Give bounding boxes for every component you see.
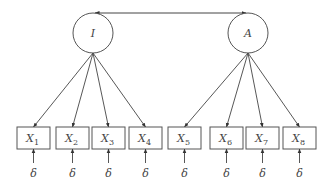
error-terms: δδδδδδδδ — [30, 149, 303, 180]
indicator-x1: X1 — [17, 127, 50, 149]
error-delta-label: δ — [259, 167, 266, 180]
factor-label: I — [90, 27, 96, 40]
indicator-x5: X5 — [168, 127, 201, 149]
indicator-x4: X4 — [129, 127, 162, 149]
indicator-x7: X7 — [246, 127, 279, 149]
indicator-x6: X6 — [210, 127, 243, 149]
loading-arrow-x6 — [227, 53, 249, 127]
error-delta-label: δ — [69, 167, 76, 180]
error-delta-label: δ — [30, 167, 37, 180]
error-delta-label: δ — [296, 167, 303, 180]
latent-factor-i: I — [73, 13, 113, 53]
latent-factor-a: A — [228, 13, 268, 53]
error-delta-label: δ — [181, 167, 188, 180]
indicator-x3: X3 — [92, 127, 125, 149]
error-delta-label: δ — [105, 167, 112, 180]
loading-arrow-x2 — [73, 53, 94, 127]
error-delta-label: δ — [223, 167, 230, 180]
sem-path-diagram: IA X1X2X3X4X5X6X7X8 δδδδδδδδ — [0, 0, 329, 193]
loading-arrow-x5 — [185, 53, 249, 127]
factor-loading-arrows — [34, 53, 300, 127]
loading-arrow-x1 — [34, 53, 94, 127]
latent-factors: IA — [73, 13, 268, 53]
indicator-x2: X2 — [56, 127, 89, 149]
loading-arrow-x8 — [248, 53, 300, 127]
error-delta-label: δ — [142, 167, 149, 180]
indicator-x8: X8 — [283, 127, 316, 149]
factor-label: A — [243, 27, 252, 40]
indicator-boxes: X1X2X3X4X5X6X7X8 — [17, 127, 316, 149]
